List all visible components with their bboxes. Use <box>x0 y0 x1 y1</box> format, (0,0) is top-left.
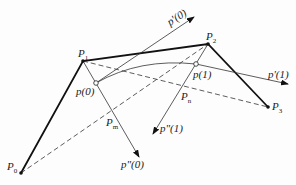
label-curve-p1: p(1) <box>192 68 212 81</box>
vector-p-prime-0 <box>96 17 194 83</box>
dashed-p0-p2 <box>21 44 208 173</box>
curve-point-p0 <box>94 81 99 86</box>
label-p-double-prime-1: p"(1) <box>159 122 183 135</box>
point-p0 <box>19 171 23 175</box>
vector-p-double-prime-1 <box>153 44 208 134</box>
label-p-prime-1: p'(1) <box>267 68 289 81</box>
curve-point-p1 <box>194 62 199 67</box>
point-p2 <box>206 42 210 46</box>
curve-diagram: P0 P1 P2 P3 p(0) p(1) Pm Pn p'(0) p'(1) … <box>0 0 296 185</box>
point-p3 <box>266 105 270 109</box>
control-polygon <box>21 44 268 173</box>
diagram-canvas: P0 P1 P2 P3 p(0) p(1) Pm Pn p'(0) p'(1) … <box>0 0 296 185</box>
label-p-prime-0: p'(0) <box>164 6 190 29</box>
dashed-p1-p3 <box>83 61 268 107</box>
label-p0: P0 <box>6 160 18 175</box>
label-pn: Pn <box>180 90 192 105</box>
label-curve-p0: p(0) <box>75 85 95 98</box>
label-p-double-prime-0: p"(0) <box>120 158 144 171</box>
label-p3: P3 <box>271 100 283 115</box>
